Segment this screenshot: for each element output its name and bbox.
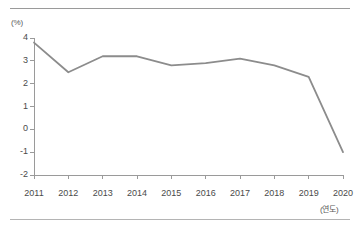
y-tick-label: 3 — [6, 55, 28, 65]
y-tick-label: 1 — [6, 101, 28, 111]
x-tick-label: 2017 — [223, 188, 257, 198]
y-tick-label: 4 — [6, 32, 28, 42]
axes-group — [34, 38, 343, 175]
x-tick-label: 2019 — [292, 188, 326, 198]
x-tick-label: 2014 — [120, 188, 154, 198]
y-tick-label: 2 — [6, 78, 28, 88]
data-line — [34, 43, 343, 153]
x-tick-label: 2018 — [257, 188, 291, 198]
y-tick-label: 0 — [6, 123, 28, 133]
plot-area: 43210-1-2 201120122013201420152016201720… — [0, 0, 360, 230]
x-tick-label: 2012 — [51, 188, 85, 198]
chart-figure: (%) (연도) 43210-1-2 201120122013201420152… — [0, 0, 360, 230]
data-series-group — [34, 43, 343, 153]
y-tick-label: -2 — [6, 169, 28, 179]
y-tick-label: -1 — [6, 146, 28, 156]
axis-ticks-group — [30, 38, 343, 179]
x-tick-label: 2013 — [86, 188, 120, 198]
x-tick-label: 2015 — [154, 188, 188, 198]
x-tick-label: 2020 — [326, 188, 360, 198]
x-tick-label: 2011 — [17, 188, 51, 198]
x-tick-label: 2016 — [189, 188, 223, 198]
